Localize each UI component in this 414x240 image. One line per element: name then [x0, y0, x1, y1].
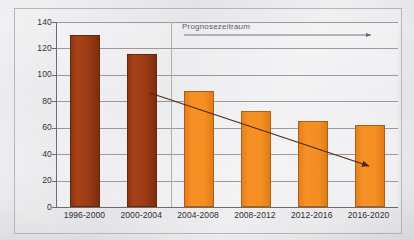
- bar-chart: in ha pro Tag 140120100806040200 1996-20…: [0, 0, 414, 240]
- trend-decline-arrow: [150, 93, 369, 166]
- annotation-arrows-overlay: [0, 0, 414, 240]
